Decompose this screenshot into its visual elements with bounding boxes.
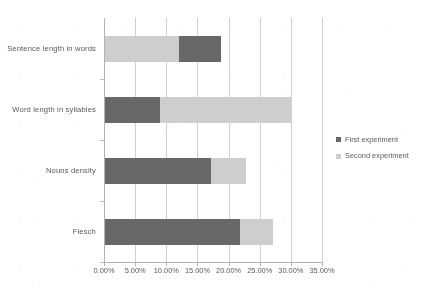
category-label: Flesch [73, 227, 96, 236]
y-axis-tick-mark [100, 201, 104, 202]
legend-entry-second-experiment: Second experiment [336, 152, 409, 159]
category-label: Nouns density [46, 166, 96, 175]
bar-segment [179, 36, 221, 62]
legend-swatch-icon [336, 154, 341, 159]
plot-area [104, 18, 322, 262]
y-axis-tick-mark [100, 262, 104, 263]
bar-segment [240, 219, 273, 245]
x-axis-tick-label: 10.00% [154, 266, 179, 275]
x-axis-tick-label: 35.00% [309, 266, 334, 275]
category-label: Sentence length in words [7, 44, 96, 53]
x-axis-tick-label: 15.00% [185, 266, 210, 275]
category-label: Word length in syllables [12, 105, 96, 114]
y-axis-tick-mark [100, 79, 104, 80]
bar-segment [104, 36, 179, 62]
legend-label: First experiment [345, 136, 398, 143]
x-axis-tick-label: 0.00% [94, 266, 115, 275]
x-axis-tick-label: 25.00% [247, 266, 272, 275]
chart-legend: First experiment Second experiment [336, 136, 409, 169]
gridline [322, 18, 323, 262]
bar-segment [104, 97, 160, 123]
bar-segment [160, 97, 291, 123]
bar-segment [211, 158, 246, 184]
bar-segment [104, 219, 240, 245]
x-axis-tick-label: 5.00% [125, 266, 146, 275]
legend-label: Second experiment [345, 152, 409, 159]
y-axis-tick-mark [100, 140, 104, 141]
bar-segment [104, 158, 211, 184]
gridline [291, 18, 292, 262]
x-axis-tick-label: 30.00% [278, 266, 303, 275]
x-axis-tick-label: 20.00% [216, 266, 241, 275]
y-axis-line [104, 18, 105, 263]
legend-swatch-icon [336, 137, 341, 142]
bar-chart: 0.00%5.00%10.00%15.00%20.00%25.00%30.00%… [0, 0, 432, 293]
legend-entry-first-experiment: First experiment [336, 136, 409, 143]
